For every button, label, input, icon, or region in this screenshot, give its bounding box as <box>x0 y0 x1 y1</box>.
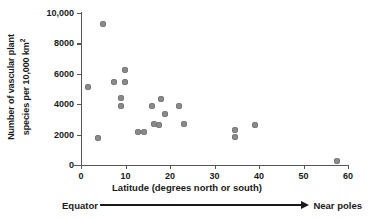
scatter-plot-figure: Number of vascular plant species per 10,… <box>0 0 374 219</box>
data-point <box>95 135 101 141</box>
y-axis-tick-label: 2000 <box>54 130 74 140</box>
data-point <box>232 127 238 133</box>
y-axis-tick <box>77 74 81 75</box>
y-axis-title: Number of vascular plant species per 10,… <box>4 12 34 162</box>
data-point <box>252 122 258 128</box>
data-point <box>158 96 164 102</box>
data-point <box>176 103 182 109</box>
y-axis-tick <box>77 43 81 44</box>
data-point <box>122 67 128 73</box>
y-axis-tick-label: 8000 <box>54 38 74 48</box>
y-axis-tick-label: 6000 <box>54 69 74 79</box>
y-axis-tick <box>77 13 81 14</box>
data-point <box>232 134 238 140</box>
x-axis-tick <box>348 165 349 169</box>
x-axis-tick <box>304 165 305 169</box>
y-axis-title-exponent: 2 <box>19 39 26 43</box>
data-point <box>135 129 141 135</box>
data-point <box>118 103 124 109</box>
data-point <box>85 84 91 90</box>
data-point <box>100 21 106 27</box>
x-axis-tick <box>126 165 127 169</box>
x-axis-line <box>74 165 349 166</box>
x-axis-tick-label: 40 <box>254 171 264 181</box>
y-axis-line <box>81 12 82 166</box>
data-point <box>162 111 168 117</box>
y-axis-title-line1: Number of vascular plant <box>6 34 16 140</box>
y-axis-tick <box>77 104 81 105</box>
data-point <box>118 95 124 101</box>
data-point <box>149 103 155 109</box>
annotation-right-label: Near poles <box>313 200 362 211</box>
y-axis-title-line2: species per 10,000 km <box>21 42 31 135</box>
annotation-left-label: Equator <box>62 200 98 211</box>
x-axis-tick-label: 10 <box>120 171 130 181</box>
data-point <box>181 121 187 127</box>
data-point <box>122 79 128 85</box>
x-axis-tick-label: 50 <box>298 171 308 181</box>
data-point <box>334 158 340 164</box>
rightwards-arrow-icon <box>100 200 310 210</box>
x-axis-tick <box>259 165 260 169</box>
x-axis-tick <box>170 165 171 169</box>
equator-poles-annotation: Equator Near poles <box>62 197 362 213</box>
x-axis-tick-label: 20 <box>165 171 175 181</box>
y-axis-tick-label: 4000 <box>54 99 74 109</box>
x-axis-tick-label: 30 <box>209 171 219 181</box>
data-point <box>156 122 162 128</box>
y-axis-tick-label: 0 <box>69 160 74 170</box>
x-axis-tick-label: 60 <box>343 171 353 181</box>
y-axis-tick <box>77 135 81 136</box>
x-axis-tick <box>81 165 82 169</box>
x-axis-title: Latitude (degrees north or south) <box>0 182 374 193</box>
y-axis-tick-label: 10,000 <box>46 8 74 18</box>
data-point <box>111 79 117 85</box>
plot-area: 0200040006000800010,0000102030405060 <box>81 13 348 165</box>
x-axis-tick-label: 0 <box>78 171 83 181</box>
data-point <box>141 129 147 135</box>
x-axis-tick <box>215 165 216 169</box>
